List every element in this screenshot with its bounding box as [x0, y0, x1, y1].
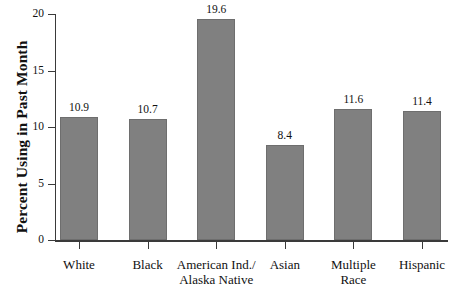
bar: 11.6: [334, 14, 372, 240]
x-tick-label-line: Hispanic: [399, 257, 445, 272]
y-tick: 5: [48, 184, 55, 185]
y-tick: 15: [48, 71, 55, 72]
bar-rect: [403, 111, 441, 240]
y-tick-label: 15: [33, 63, 45, 78]
x-tick: [285, 242, 286, 249]
x-tick-label-line: American Ind./: [177, 257, 256, 272]
y-tick-label: 10: [33, 119, 45, 134]
x-tick: [79, 242, 80, 249]
bar: 19.6: [197, 14, 235, 240]
bar-value-label: 10.9: [69, 100, 89, 114]
y-tick: 10: [48, 127, 55, 128]
x-tick-label: Asian: [270, 257, 300, 272]
x-tick-label: Hispanic: [399, 257, 445, 272]
bar-value-label: 19.6: [206, 2, 226, 16]
bar: 11.4: [403, 14, 441, 240]
x-tick-label-line: Alaska Native: [177, 272, 256, 287]
bar-value-label: 11.6: [344, 92, 364, 106]
x-tick: [353, 242, 354, 249]
bar-rect: [129, 119, 167, 240]
bar-value-label: 8.4: [278, 128, 292, 142]
x-tick-label: MultipleRace: [331, 257, 376, 287]
y-axis-title: Percent Using in Past Month: [13, 27, 31, 247]
y-tick: 0: [48, 240, 55, 241]
x-tick-label-line: Multiple: [331, 257, 376, 272]
x-tick-label-line: Black: [132, 257, 162, 272]
y-tick-label: 20: [33, 6, 45, 21]
bar-rect: [197, 19, 235, 240]
plot-area: 05101520 10.910.719.68.411.611.4 WhiteBl…: [55, 14, 448, 240]
x-tick-label-line: White: [63, 257, 95, 272]
bar-value-label: 10.7: [138, 102, 158, 116]
bar: 10.9: [60, 14, 98, 240]
bar: 10.7: [129, 14, 167, 240]
y-tick: 20: [48, 14, 55, 15]
bar-rect: [266, 145, 304, 240]
x-tick: [422, 242, 423, 249]
bar-value-label: 11.4: [412, 94, 432, 108]
x-axis-line: [55, 240, 448, 242]
x-tick-label-line: Race: [331, 272, 376, 287]
bar-series: 10.910.719.68.411.611.4: [55, 14, 448, 240]
x-tick: [148, 242, 149, 249]
y-tick-label: 0: [38, 232, 44, 247]
bar: 8.4: [266, 14, 304, 240]
bar-rect: [60, 117, 98, 240]
y-tick-label: 5: [38, 176, 44, 191]
x-tick-label-line: Asian: [270, 257, 300, 272]
x-tick-label: White: [63, 257, 95, 272]
bar-rect: [334, 109, 372, 240]
x-tick-label: American Ind./Alaska Native: [177, 257, 256, 287]
bar-chart: Percent Using in Past Month 05101520 10.…: [0, 0, 458, 297]
x-tick-label: Black: [132, 257, 162, 272]
x-tick: [216, 242, 217, 249]
